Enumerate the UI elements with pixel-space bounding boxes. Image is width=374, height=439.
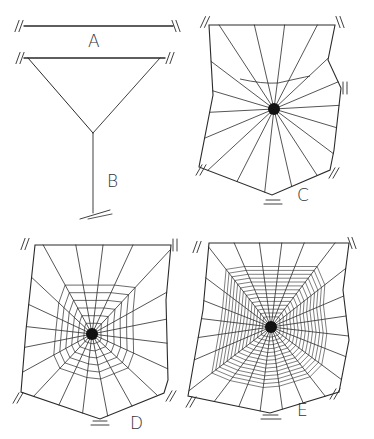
web-diagram [0, 0, 374, 439]
panel-b-y-frame [16, 52, 174, 219]
label-e: E [297, 400, 308, 420]
panel-d-auxiliary-spiral [13, 238, 177, 425]
panel-c-frame-and-radii [196, 16, 347, 204]
label-d: D [130, 413, 143, 433]
label-a: A [88, 31, 100, 51]
label-b: B [107, 171, 118, 191]
panel-e-capture-spiral [186, 237, 356, 419]
panel-a-bridge-line [15, 20, 180, 31]
label-c: C [297, 185, 309, 205]
